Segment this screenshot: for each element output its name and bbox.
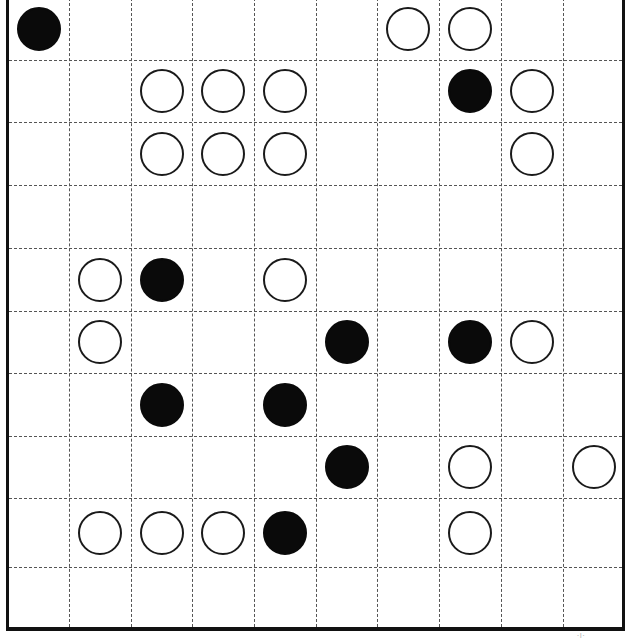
black-stone[interactable] [325, 445, 369, 489]
black-stone[interactable] [263, 511, 307, 555]
white-stone[interactable] [201, 69, 245, 113]
black-stone[interactable] [325, 320, 369, 364]
white-stone[interactable] [78, 320, 122, 364]
white-stone[interactable] [510, 69, 554, 113]
grid-line-horizontal [9, 60, 622, 61]
white-stone[interactable] [78, 258, 122, 302]
grid-line-vertical [254, 0, 255, 627]
white-stone[interactable] [510, 132, 554, 176]
grid-line-horizontal [9, 567, 622, 568]
black-stone[interactable] [140, 383, 184, 427]
white-stone[interactable] [78, 511, 122, 555]
white-stone[interactable] [448, 445, 492, 489]
grid-line-vertical [316, 0, 317, 627]
white-stone[interactable] [510, 320, 554, 364]
white-stone[interactable] [201, 132, 245, 176]
white-stone[interactable] [140, 132, 184, 176]
grid-line-vertical [69, 0, 70, 627]
footer-mark: ·ı· [577, 630, 586, 640]
grid-line-horizontal [9, 185, 622, 186]
white-stone[interactable] [263, 69, 307, 113]
grid-line-horizontal [9, 373, 622, 374]
white-stone[interactable] [263, 258, 307, 302]
grid-line-vertical [501, 0, 502, 627]
grid-line-vertical [563, 0, 564, 627]
grid-line-horizontal [9, 122, 622, 123]
black-stone[interactable] [448, 69, 492, 113]
white-stone[interactable] [386, 7, 430, 51]
black-stone[interactable] [448, 320, 492, 364]
black-stone[interactable] [263, 383, 307, 427]
grid-line-horizontal [9, 436, 622, 437]
game-board[interactable] [6, 0, 625, 631]
white-stone[interactable] [140, 69, 184, 113]
white-stone[interactable] [201, 511, 245, 555]
white-stone[interactable] [263, 132, 307, 176]
grid-line-vertical [131, 0, 132, 627]
white-stone[interactable] [140, 511, 184, 555]
grid-line-vertical [192, 0, 193, 627]
black-stone[interactable] [140, 258, 184, 302]
white-stone[interactable] [448, 511, 492, 555]
white-stone[interactable] [448, 7, 492, 51]
grid-line-horizontal [9, 311, 622, 312]
grid-line-vertical [439, 0, 440, 627]
white-stone[interactable] [572, 445, 616, 489]
grid-line-vertical [377, 0, 378, 627]
grid-line-horizontal [9, 248, 622, 249]
black-stone[interactable] [17, 7, 61, 51]
grid-line-horizontal [9, 498, 622, 499]
